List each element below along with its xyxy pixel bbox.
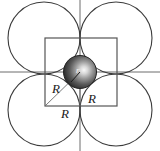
- label-vertical-R: R: [87, 91, 96, 106]
- label-diagonal-R: R: [51, 81, 60, 96]
- label-center-r: r: [76, 65, 80, 75]
- label-bottom-R: R: [60, 106, 69, 121]
- diagram-canvas: R R R r: [0, 0, 160, 151]
- geometry-diagram: R R R r: [0, 0, 160, 151]
